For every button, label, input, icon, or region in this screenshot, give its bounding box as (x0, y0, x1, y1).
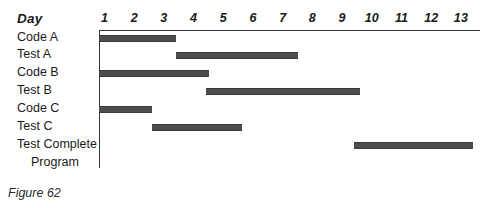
day-tick-2: 2 (131, 11, 138, 25)
day-tick-6: 6 (249, 11, 256, 25)
day-tick-9: 9 (339, 11, 346, 25)
axis-line-vertical (99, 30, 100, 168)
figure-caption: Figure 62 (8, 186, 61, 200)
day-tick-8: 8 (309, 11, 316, 25)
day-tick-4: 4 (190, 11, 197, 25)
day-tick-3: 3 (160, 11, 167, 25)
task-bar-test-a (176, 52, 298, 59)
gantt-chart-figure: Day 12345678910111213 Code ATest ACode B… (0, 0, 497, 208)
task-bar-code-c (99, 106, 152, 113)
task-label-test-a: Test A (17, 48, 51, 61)
task-bar-code-a (99, 35, 176, 42)
task-bar-code-b (99, 70, 209, 77)
day-tick-10: 10 (365, 11, 379, 25)
task-label-test-complete-program: Test Complete (17, 138, 97, 151)
task-bar-test-c (152, 124, 241, 131)
day-tick-11: 11 (395, 11, 408, 25)
task-label-test-complete-program-continued: Program (31, 156, 79, 169)
task-bar-test-b (206, 88, 360, 95)
day-tick-1: 1 (101, 11, 108, 25)
task-label-code-b: Code B (17, 66, 59, 79)
day-tick-13: 13 (454, 11, 468, 25)
task-label-code-a: Code A (17, 31, 58, 44)
axis-title-day: Day (17, 11, 42, 26)
task-label-test-b: Test B (17, 84, 52, 97)
day-tick-7: 7 (279, 11, 286, 25)
task-bar-test-complete-program (354, 142, 473, 149)
task-label-test-c: Test C (17, 120, 52, 133)
day-tick-5: 5 (220, 11, 227, 25)
axis-line-horizontal (99, 30, 480, 31)
task-label-code-c: Code C (17, 102, 59, 115)
day-tick-12: 12 (424, 11, 438, 25)
